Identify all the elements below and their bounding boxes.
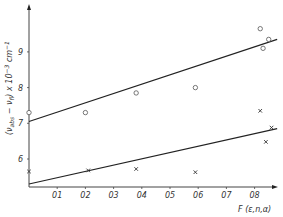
- svg-text:(νabs − νfl) x 10−3 cm−1: (νabs − νfl) x 10−3 cm−1: [3, 41, 15, 135]
- x-tick-label: 03: [109, 191, 119, 200]
- cross-marker: [264, 140, 268, 144]
- y-tick-label: 9: [18, 48, 23, 57]
- cross-marker: [134, 167, 138, 171]
- circle-marker: [261, 46, 265, 50]
- x-tick-label: 08: [250, 191, 260, 200]
- x-tick-label: 02: [80, 191, 90, 200]
- circles-fit-line: [29, 39, 277, 121]
- circle-marker: [193, 85, 197, 89]
- cross-marker: [270, 126, 274, 130]
- x-tick-label: 07: [221, 191, 232, 200]
- y-axis-arrow-icon: [27, 4, 31, 10]
- circle-marker: [267, 37, 271, 41]
- x-tick-label: 05: [165, 191, 175, 200]
- x-tick-label: 04: [137, 191, 147, 200]
- y-axis-title: (νabs − νfl) x 10−3 cm−1: [3, 41, 15, 135]
- chart: 01020304050607086789 F (ε,n,α) (νabs − ν…: [0, 0, 283, 217]
- circle-marker: [27, 110, 31, 114]
- circle-marker: [258, 26, 262, 30]
- y-tick-label: 6: [18, 155, 23, 164]
- x-tick-label: 06: [193, 191, 203, 200]
- cross-marker: [258, 109, 262, 113]
- y-tick-label: 8: [18, 84, 23, 93]
- plot-area: 01020304050607086789: [18, 4, 278, 200]
- circle-marker: [83, 110, 87, 114]
- circle-marker: [134, 91, 138, 95]
- x-axis-title: F (ε,n,α): [238, 205, 271, 214]
- cross-marker: [194, 170, 198, 174]
- x-tick-label: 01: [52, 191, 62, 200]
- x-axis-arrow-icon: [272, 185, 278, 189]
- crosses-fit-line: [29, 129, 277, 184]
- y-tick-label: 7: [18, 119, 24, 128]
